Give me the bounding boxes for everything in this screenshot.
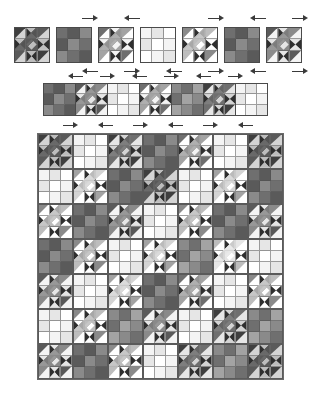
hourglass-unit	[179, 286, 189, 296]
half-square-triangle	[109, 275, 119, 285]
patch-cell	[50, 332, 61, 343]
patch-cell	[109, 181, 120, 192]
block-cell-grid	[214, 170, 247, 203]
corner-hst-bl	[39, 157, 50, 168]
half-square-triangle	[109, 345, 119, 355]
hourglass-unit	[214, 181, 224, 191]
patch-cell	[85, 356, 96, 367]
half-square-triangle	[74, 310, 84, 320]
corner-hst-tr	[236, 170, 247, 181]
pressing-arrow-quilt	[168, 122, 183, 129]
quilt-block-r4-c3	[143, 274, 178, 309]
half-square-triangle	[109, 205, 119, 215]
half-square-triangle	[179, 275, 189, 285]
corner-hst-tl	[249, 135, 260, 146]
x-unit-bottom	[260, 367, 271, 378]
patch-cell	[74, 286, 85, 297]
quilt-block-r4-c2	[108, 274, 143, 309]
x-unit-top	[85, 170, 96, 181]
x-unit-right	[166, 251, 177, 262]
patch-cell	[50, 251, 61, 262]
corner-hst-tl	[39, 345, 50, 356]
patch-cell	[120, 240, 131, 251]
half-square-triangle	[214, 262, 224, 273]
arrow-shaft	[133, 125, 143, 126]
patch-cell	[179, 240, 190, 251]
hourglass-unit	[271, 216, 282, 226]
quilt-block-r5-c0	[38, 309, 73, 344]
x-unit-bottom	[85, 332, 96, 343]
patch-cell	[96, 205, 107, 216]
hourglass-unit	[61, 286, 72, 296]
hourglass-unit	[271, 146, 282, 156]
patch-cell	[190, 240, 201, 251]
patch-cell	[271, 181, 282, 192]
corner-hst-bl	[109, 297, 120, 308]
patch-cell	[144, 275, 155, 286]
corner-hst-bl	[214, 262, 225, 273]
block-cell-grid	[74, 240, 107, 273]
block-cell-grid	[249, 170, 282, 203]
x-unit-top	[260, 205, 271, 216]
half-square-triangle	[61, 297, 72, 308]
center-on-point-square	[155, 251, 166, 262]
x-unit-right	[96, 251, 107, 262]
patch-cell	[50, 310, 61, 321]
patch-cell	[214, 345, 225, 356]
corner-hst-bl	[179, 297, 190, 308]
corner-hst-br	[236, 192, 247, 203]
hourglass-unit	[50, 345, 60, 355]
center-on-point-square	[50, 216, 61, 227]
hourglass-unit	[179, 216, 189, 226]
hourglass-unit	[155, 262, 165, 273]
half-square-triangle	[179, 205, 189, 215]
patch-cell	[201, 332, 212, 343]
x-unit-right	[166, 321, 177, 332]
x-unit-left	[109, 216, 120, 227]
corner-hst-bl	[249, 227, 260, 238]
patch-cell	[201, 262, 212, 273]
x-unit-top	[50, 135, 61, 146]
patch-cell	[74, 345, 85, 356]
x-unit-bottom	[50, 297, 61, 308]
corner-hst-tr	[131, 345, 142, 356]
half-square-triangle	[74, 332, 84, 343]
corner-hst-tl	[109, 275, 120, 286]
on-point-square	[50, 356, 60, 366]
hourglass-unit	[260, 227, 270, 238]
corner-hst-tl	[179, 275, 190, 286]
hourglass-unit	[120, 297, 130, 308]
half-square-triangle	[144, 310, 154, 320]
patch-cell	[155, 286, 166, 297]
patch-cell	[155, 205, 166, 216]
patch-cell	[166, 345, 177, 356]
half-square-triangle	[271, 205, 282, 215]
patch-cell	[144, 297, 155, 308]
patch-cell	[120, 332, 131, 343]
half-square-triangle	[144, 192, 154, 203]
hourglass-unit	[214, 251, 224, 261]
block-cell-grid	[179, 205, 212, 238]
hourglass-unit	[166, 181, 177, 191]
patch-cell	[166, 356, 177, 367]
half-square-triangle	[131, 157, 142, 168]
x-unit-left	[249, 356, 260, 367]
arrow-shaft	[103, 125, 113, 126]
patch-cell	[131, 262, 142, 273]
arrow-head	[213, 122, 218, 128]
patch-cell	[144, 146, 155, 157]
hourglass-unit	[50, 227, 60, 238]
corner-hst-tr	[61, 135, 72, 146]
patch-cell	[61, 251, 72, 262]
half-square-triangle	[214, 192, 224, 203]
quilt-block-r5-c1	[73, 309, 108, 344]
corner-hst-bl	[179, 157, 190, 168]
block-cell-grid	[109, 205, 142, 238]
half-square-triangle	[39, 345, 49, 355]
hourglass-unit	[120, 205, 130, 215]
x-unit-left	[109, 356, 120, 367]
x-unit-top	[120, 135, 131, 146]
x-unit-left	[74, 251, 85, 262]
hourglass-unit	[109, 286, 119, 296]
patch-cell	[236, 356, 247, 367]
